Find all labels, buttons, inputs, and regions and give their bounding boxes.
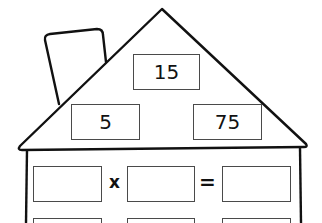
- left-wall: [26, 150, 27, 223]
- equation-1-result-input[interactable]: [222, 166, 291, 202]
- roof-left-number: 5: [99, 112, 112, 132]
- equation-2-result-input[interactable]: [222, 218, 291, 223]
- roof-top-number: 15: [154, 62, 179, 82]
- roof-left-number-box: 5: [71, 104, 140, 140]
- equation-2-operand2-input[interactable]: [127, 218, 195, 223]
- right-wall: [300, 148, 301, 223]
- roof-right-number-box: 75: [193, 104, 262, 140]
- multiply-sign: x: [109, 174, 120, 191]
- equation-2-operand1-input[interactable]: [33, 218, 102, 223]
- roof-top-number-box: 15: [133, 54, 200, 90]
- equals-sign: =: [199, 172, 216, 192]
- equation-1-operand2-input[interactable]: [127, 166, 195, 202]
- equation-1-operand1-input[interactable]: [33, 166, 102, 202]
- roof-right-number: 75: [215, 112, 240, 132]
